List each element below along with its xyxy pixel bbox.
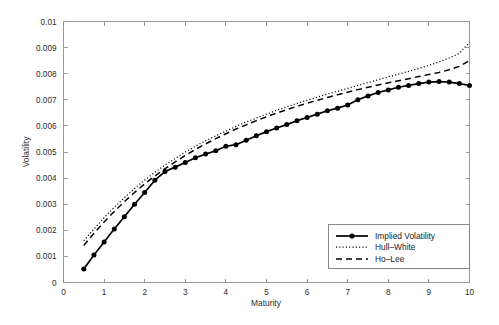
- data-point-marker: [81, 266, 86, 271]
- data-point-marker: [467, 83, 472, 88]
- data-point-marker: [457, 81, 462, 86]
- legend-label-hull-white: Hull–White: [375, 242, 416, 252]
- x-tick-label: 0: [61, 288, 66, 297]
- chart-canvas: 012345678910 00.0010.0020.0030.0040.0050…: [0, 0, 499, 325]
- data-point-marker: [416, 81, 421, 86]
- y-tick-label: 0.004: [36, 174, 57, 183]
- data-point-marker: [447, 80, 452, 85]
- data-point-marker: [264, 129, 269, 134]
- data-point-marker: [376, 90, 381, 95]
- legend-swatch-circle-marker: [349, 233, 354, 238]
- y-tick-label: 0: [52, 279, 57, 288]
- y-tick-label: 0.008: [36, 70, 57, 79]
- legend-label-ho-lee: Ho–Lee: [375, 254, 405, 264]
- x-tick-label: 9: [427, 288, 432, 297]
- data-point-marker: [91, 253, 96, 258]
- data-point-marker: [102, 240, 107, 245]
- data-point-marker: [325, 108, 330, 113]
- y-tick-label: 0.007: [36, 96, 57, 105]
- data-point-marker: [315, 112, 320, 117]
- data-point-marker: [284, 122, 289, 127]
- series-line-ho-lee: [84, 61, 470, 246]
- data-point-marker: [426, 80, 431, 85]
- data-point-marker: [223, 144, 228, 149]
- data-point-marker: [203, 152, 208, 157]
- data-point-marker: [355, 97, 360, 102]
- x-tick-label: 3: [183, 288, 188, 297]
- data-point-marker: [305, 115, 310, 120]
- figure-container: 012345678910 00.0010.0020.0030.0040.0050…: [0, 0, 499, 325]
- x-tick-label: 5: [264, 288, 269, 297]
- data-point-marker: [406, 83, 411, 88]
- data-point-marker: [163, 169, 168, 174]
- data-point-marker: [366, 93, 371, 98]
- data-point-marker: [173, 165, 178, 170]
- data-point-marker: [345, 103, 350, 108]
- series-line-hull-white: [84, 42, 470, 240]
- x-tick-label: 1: [102, 288, 107, 297]
- y-axis-title: Volatility: [21, 136, 31, 168]
- x-tick-label: 4: [224, 288, 229, 297]
- y-tick-label: 0.01: [41, 18, 57, 27]
- legend-label-implied-volatility: Implied Volatility: [375, 231, 436, 241]
- y-tick-label: 0.006: [36, 122, 57, 131]
- data-point-marker: [183, 160, 188, 165]
- data-point-marker: [244, 138, 249, 143]
- x-tick-label: 2: [142, 288, 147, 297]
- x-tick-label: 10: [465, 288, 475, 297]
- x-tick-label: 6: [305, 288, 310, 297]
- y-tick-label: 0.001: [36, 252, 57, 261]
- data-point-marker: [274, 125, 279, 130]
- data-point-marker: [122, 214, 127, 219]
- data-point-marker: [142, 190, 147, 195]
- data-point-marker: [112, 227, 117, 232]
- data-point-marker: [213, 148, 218, 153]
- data-point-marker: [437, 79, 442, 84]
- y-tick-label: 0.002: [36, 226, 57, 235]
- data-point-marker: [152, 178, 157, 183]
- data-point-marker: [335, 106, 340, 111]
- x-tick-label: 8: [386, 288, 391, 297]
- data-point-marker: [386, 87, 391, 92]
- legend[interactable]: Implied Volatility Hull–White Ho–Lee: [329, 225, 470, 269]
- y-tick-label: 0.009: [36, 44, 57, 53]
- y-tick-label: 0.003: [36, 200, 57, 209]
- data-point-marker: [132, 202, 137, 207]
- data-point-marker: [234, 142, 239, 147]
- data-point-marker: [193, 155, 198, 160]
- x-axis-title: Maturity: [251, 298, 282, 308]
- data-point-marker: [294, 118, 299, 123]
- y-axis-tick-labels: 00.0010.0020.0030.0040.0050.0060.0070.00…: [36, 18, 57, 288]
- x-tick-label: 7: [345, 288, 350, 297]
- data-point-marker: [254, 133, 259, 138]
- data-point-marker: [396, 85, 401, 90]
- x-axis-tick-labels: 012345678910: [61, 288, 474, 297]
- y-tick-label: 0.005: [36, 148, 57, 157]
